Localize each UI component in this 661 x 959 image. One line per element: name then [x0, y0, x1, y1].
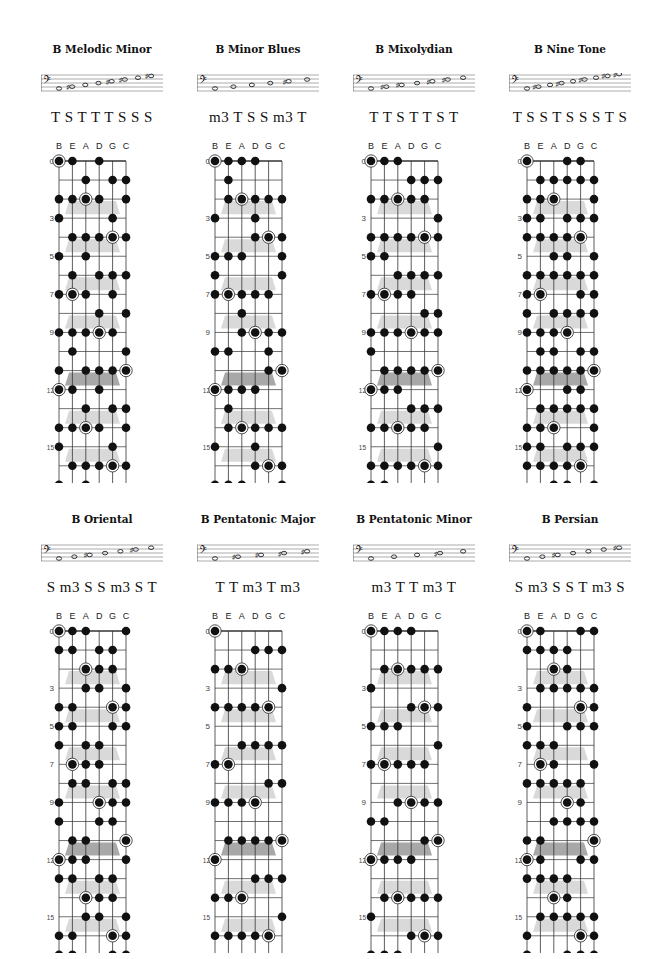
- scale-panel: B Mixolydian 𝄢♯♯♯♯ T T S T T S T BEADGC0…: [339, 43, 489, 483]
- scale-note-dot: [278, 271, 287, 280]
- root-note-dot: [576, 703, 585, 712]
- whole-note: [430, 80, 435, 84]
- scale-note-dot: [82, 684, 91, 693]
- scale-note-dot: [394, 385, 403, 394]
- scale-note-dot: [251, 874, 260, 883]
- whole-note: [582, 78, 587, 82]
- scale-panel: B Persian 𝄢♯♯ S m3 S S T m3 S BEADGC0357…: [495, 513, 645, 953]
- scale-note-dot: [380, 722, 389, 731]
- fret-number: 17: [359, 482, 367, 483]
- scale-note-dot: [394, 462, 403, 471]
- scale-note-dot: [211, 481, 220, 483]
- scale-note-dot: [122, 176, 131, 185]
- scale-note-dot: [563, 951, 572, 953]
- scale-note-dot: [122, 722, 131, 731]
- scale-note-dot: [380, 195, 389, 204]
- fret-number: 7: [50, 760, 55, 769]
- whole-note: [414, 553, 419, 557]
- scale-note-dot: [590, 423, 599, 432]
- scale-note-dot: [238, 385, 247, 394]
- scale-note-dot: [394, 760, 403, 769]
- scale-note-dot: [590, 912, 599, 921]
- scale-note-dot: [238, 932, 247, 941]
- scale-note-dot: [407, 893, 416, 902]
- scale-note-dot: [68, 385, 77, 394]
- scale-note-dot: [251, 214, 260, 223]
- scale-title: B Nine Tone: [495, 43, 645, 55]
- scale-note-dot: [590, 271, 599, 280]
- fret-number: 3: [362, 214, 367, 223]
- scale-note-dot: [590, 214, 599, 223]
- scale-note-dot: [55, 951, 64, 953]
- scale-note-dot: [407, 271, 416, 280]
- scale-note-dot: [523, 722, 532, 731]
- root-note-dot: [550, 893, 559, 902]
- scale-note-dot: [278, 423, 287, 432]
- scale-note-dot: [407, 176, 416, 185]
- scale-note-dot: [367, 195, 376, 204]
- scale-note-dot: [367, 290, 376, 299]
- string-label: G: [265, 613, 272, 621]
- scale-note-dot: [82, 779, 91, 788]
- string-label: A: [551, 613, 557, 621]
- step-pattern: S m3 S S T m3 S: [495, 579, 645, 596]
- scale-note-dot: [590, 760, 599, 769]
- scale-note-dot: [278, 741, 287, 750]
- scale-note-dot: [68, 195, 77, 204]
- fret-number: 15: [359, 914, 367, 921]
- scale-note-dot: [590, 951, 599, 953]
- scale-note-dot: [420, 271, 429, 280]
- scale-note-dot: [68, 646, 77, 655]
- scale-note-dot: [394, 722, 403, 731]
- string-label: D: [96, 613, 103, 621]
- root-note-dot: [108, 462, 117, 471]
- whole-note: [133, 548, 138, 552]
- scale-note-dot: [264, 779, 273, 788]
- scale-note-dot: [563, 404, 572, 413]
- fret-number: 5: [50, 722, 55, 731]
- scale-note-dot: [211, 798, 220, 807]
- scale-note-dot: [55, 328, 64, 337]
- scale-note-dot: [95, 271, 104, 280]
- string-label: D: [564, 613, 571, 621]
- string-label: A: [83, 143, 89, 151]
- root-note-dot: [238, 423, 247, 432]
- root-note-dot: [55, 157, 64, 166]
- string-label: B: [212, 143, 218, 151]
- scale-note-dot: [407, 290, 416, 299]
- scale-note-dot: [122, 684, 131, 693]
- root-note-dot: [367, 385, 376, 394]
- whole-note: [109, 80, 114, 84]
- scale-note-dot: [211, 290, 220, 299]
- fret-number: 5: [206, 722, 211, 731]
- fret-number: 15: [47, 914, 55, 921]
- fretboard-diagram: BEADGC03579121517: [495, 143, 645, 483]
- scale-note-dot: [550, 233, 559, 242]
- root-note-dot: [576, 462, 585, 471]
- scale-note-dot: [95, 462, 104, 471]
- scale-note-dot: [590, 722, 599, 731]
- scale-note-dot: [407, 665, 416, 674]
- scale-note-dot: [590, 932, 599, 941]
- scale-note-dot: [264, 366, 273, 375]
- scale-note-dot: [95, 874, 104, 883]
- string-label: C: [435, 613, 442, 621]
- root-note-dot: [523, 385, 532, 394]
- scale-note-dot: [108, 404, 117, 413]
- scale-note-dot: [563, 252, 572, 261]
- fret-number: 17: [47, 952, 55, 953]
- whole-note: [445, 78, 450, 82]
- scale-note-dot: [251, 462, 260, 471]
- scale-note-dot: [536, 462, 545, 471]
- scale-note-dot: [68, 462, 77, 471]
- scale-note-dot: [550, 779, 559, 788]
- scale-note-dot: [251, 157, 260, 166]
- scale-note-dot: [367, 423, 376, 432]
- root-note-dot: [82, 423, 91, 432]
- fret-number: 9: [50, 328, 55, 337]
- string-label: C: [123, 613, 130, 621]
- root-note-dot: [238, 195, 247, 204]
- bass-clef-icon: 𝄢: [43, 74, 51, 88]
- scale-note-dot: [563, 912, 572, 921]
- whole-note: [305, 550, 310, 554]
